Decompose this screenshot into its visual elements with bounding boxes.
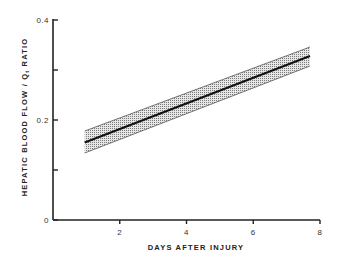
y-axis-title: HEPATIC BLOOD FLOW / Qt RATIO — [20, 38, 30, 197]
regression-line — [85, 56, 310, 143]
x-tick-label: 6 — [251, 228, 256, 237]
band-lower-edge — [85, 66, 310, 153]
band-upper-edge — [85, 47, 310, 131]
x-tick-label: 4 — [184, 228, 189, 237]
y-tick-label: 0 — [44, 216, 49, 225]
x-axis-title: DAYS AFTER INJURY — [148, 243, 245, 252]
chart: 00.20.42468 DAYS AFTER INJURY HEPATIC BL… — [0, 0, 340, 266]
y-tick-label: 0.2 — [36, 116, 49, 125]
axes: 00.20.42468 — [36, 16, 322, 237]
x-tick-label: 8 — [318, 228, 323, 237]
plot-area — [85, 47, 310, 153]
y-tick-label: 0.4 — [36, 16, 49, 25]
x-tick-label: 2 — [117, 228, 122, 237]
